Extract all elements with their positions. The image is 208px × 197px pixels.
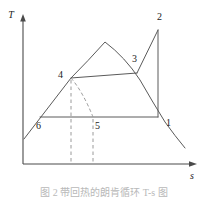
x-axis-label: s — [190, 170, 194, 181]
process-line-4-3 — [71, 73, 137, 78]
ts-diagram-figure: T s 1 2 3 4 5 6 图 2 带回热的朗肯循环 T-s 图 — [0, 0, 208, 197]
y-axis-arrow-icon — [20, 14, 26, 22]
ts-diagram-canvas: T s 1 2 3 4 5 6 — [0, 0, 208, 197]
axes-group — [20, 14, 197, 167]
dashed-guide-lines — [71, 78, 93, 163]
figure-caption: 图 2 带回热的朗肯循环 T-s 图 — [0, 187, 208, 197]
state-point-label-2: 2 — [157, 11, 162, 22]
state-point-label-6: 6 — [36, 120, 41, 131]
y-axis-label: T — [8, 9, 15, 20]
state-point-label-4: 4 — [58, 69, 63, 80]
state-point-label-3: 3 — [132, 53, 137, 64]
dashed-expansion-4-5 — [71, 78, 93, 117]
state-point-label-1: 1 — [166, 117, 171, 128]
x-axis-arrow-icon — [189, 161, 197, 167]
process-line-2-3 — [137, 30, 158, 73]
state-point-label-5: 5 — [95, 120, 100, 131]
saturation-dome-curve — [24, 42, 185, 148]
